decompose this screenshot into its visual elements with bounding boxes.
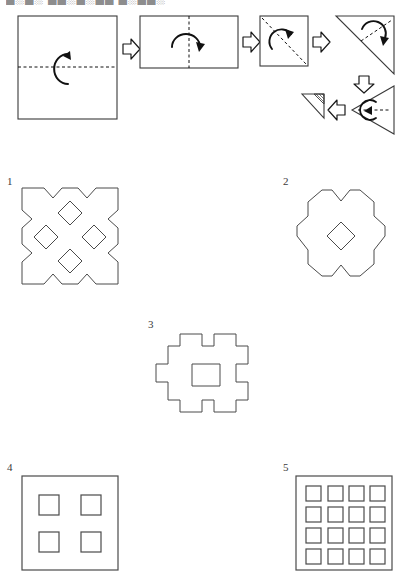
option-2-figure[interactable] <box>278 172 402 300</box>
option-4-figure[interactable] <box>4 458 128 576</box>
fold-step-1 <box>18 16 117 119</box>
arrow-step-3-to-4 <box>313 32 330 52</box>
fold-step-2 <box>140 16 238 68</box>
arrow-step-5-to-6 <box>328 100 345 120</box>
option-3-figure[interactable] <box>140 316 264 436</box>
arrow-step-2-to-3 <box>243 32 260 52</box>
fold-step-5 <box>352 86 394 134</box>
fold-sequence-diagram <box>0 8 406 140</box>
option-1-figure[interactable] <box>4 172 128 300</box>
fold-step-4 <box>336 16 394 74</box>
fold-step-6 <box>302 94 324 118</box>
fold-step-3 <box>260 16 308 66</box>
puzzle-page: █░█░ ██░█░██ █░██░ <box>0 0 406 579</box>
cut-off-header-text: █░█░ ██░█░██ █░██░ <box>6 0 236 5</box>
option-5-figure[interactable] <box>278 458 402 576</box>
arrow-step-1-to-2 <box>123 39 140 59</box>
arrow-step-4-to-5 <box>354 76 374 93</box>
